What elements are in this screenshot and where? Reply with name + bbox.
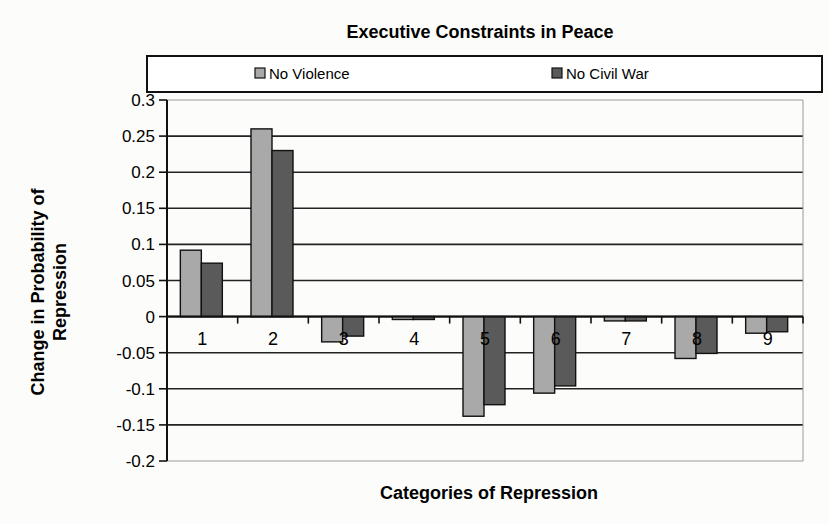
x-category-label: 8 [692,329,702,349]
y-axis-title: Change in Probability of Repression [28,187,70,395]
y-tick-label: -0.2 [126,452,155,471]
x-category-label: 9 [763,329,773,349]
y-tick-label: -0.15 [116,416,155,435]
bar-no-civil-war-cat-6 [555,317,576,386]
bar-no-civil-war-cat-1 [201,263,222,316]
y-tick-label: 0.3 [131,91,155,110]
y-axis-ticks: 0.30.250.20.150.10.050-0.05-0.1-0.15-0.2 [116,91,167,471]
x-category-label: 4 [409,329,419,349]
chart-title: Executive Constraints in Peace [346,22,613,42]
y-tick-label: 0.25 [122,127,155,146]
y-tick-label: 0.15 [122,199,155,218]
bar-no-civil-war-cat-2 [272,151,293,317]
x-category-label: 6 [551,329,561,349]
x-axis-title: Categories of Repression [380,483,598,503]
bar-chart: Executive Constraints in Peace No Violen… [0,0,829,524]
x-category-label: 2 [268,329,278,349]
legend-box [147,56,822,92]
legend-swatch-no-civil-war [552,68,562,78]
y-tick-label: 0.2 [131,163,155,182]
y-tick-label: -0.1 [126,380,155,399]
x-category-label: 7 [621,329,631,349]
legend-label-no-civil-war: No Civil War [566,65,649,82]
y-axis-title-line-2: Repression [50,243,70,341]
y-tick-label: 0.05 [122,272,155,291]
bar-no-violence-cat-1 [180,250,201,316]
bar-no-violence-cat-2 [251,129,272,317]
y-tick-label: 0 [146,308,155,327]
legend-swatch-no-violence [255,68,265,78]
y-tick-label: 0.1 [131,235,155,254]
x-category-label: 1 [197,329,207,349]
x-category-label: 3 [339,329,349,349]
y-axis-title-line-1: Change in Probability of [28,187,48,395]
x-category-label: 5 [480,329,490,349]
legend-label-no-violence: No Violence [269,65,350,82]
legend: No ViolenceNo Civil War [147,56,822,92]
y-tick-label: -0.05 [116,344,155,363]
